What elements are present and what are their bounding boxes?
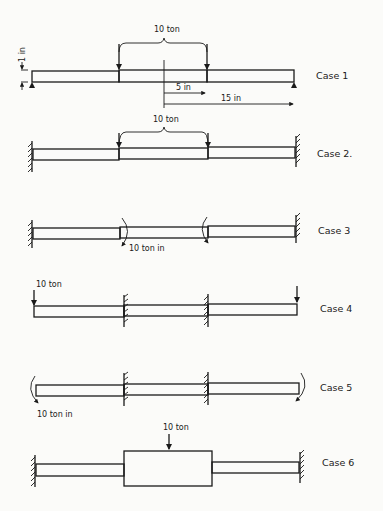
moment-arrow-left-icon — [31, 376, 38, 403]
support-left-icon — [29, 82, 35, 88]
moment-arrow-right-icon — [296, 373, 305, 401]
hatched-section-right — [212, 462, 299, 473]
case-label: Case 3 — [318, 225, 350, 236]
hatched-section-right — [208, 147, 295, 158]
case-3: 10 ton in Case 3 — [28, 213, 350, 253]
center-section — [119, 148, 208, 159]
hatched-section-left — [33, 228, 120, 239]
case-label: Case 2. — [317, 148, 352, 159]
fixed-wall-right-icon — [296, 134, 300, 167]
fixed-wall-left-icon — [28, 220, 32, 248]
center-section — [119, 70, 207, 82]
hatched-section-left — [33, 149, 119, 160]
hatched-section-right — [207, 70, 294, 82]
case-1: 10 ton 1 in 5 in 15 in Case 1 — [18, 25, 348, 108]
thickness-label: 1 in — [18, 47, 27, 62]
center-section — [124, 305, 208, 316]
moment-arrow-right-icon — [202, 217, 208, 243]
case-5: 10 ton in Case 5 — [31, 372, 353, 419]
beam-cases-diagram: 10 ton 1 in 5 in 15 in Case 1 10 ton — [0, 0, 383, 511]
hatched-section-left — [36, 464, 124, 476]
case-label: Case 4 — [320, 303, 352, 314]
hatched-section-left — [34, 306, 124, 317]
fixed-support-right-icon — [204, 294, 208, 327]
load-label: 10 ton in — [129, 244, 165, 253]
support-right-icon — [291, 82, 297, 88]
hatched-section-right — [208, 304, 297, 315]
case-4: 10 ton Case 4 — [34, 280, 352, 327]
fixed-support-left-icon — [124, 294, 128, 327]
fixed-wall-right-icon — [296, 213, 300, 243]
center-section — [120, 227, 208, 238]
fixed-wall-right-icon — [300, 450, 304, 483]
case-6: 10 ton Case 6 — [31, 423, 354, 487]
fixed-wall-left-icon — [28, 141, 32, 172]
load-label: 10 ton — [153, 115, 179, 124]
case-label: Case 1 — [316, 70, 348, 81]
dim-inner-label: 5 in — [176, 83, 191, 92]
fixed-support-right-icon — [204, 372, 208, 405]
hatched-section-right — [208, 226, 295, 237]
hatched-section-left — [32, 71, 119, 82]
case-2: 10 ton Case 2. — [28, 115, 352, 172]
load-label: 10 ton — [163, 423, 189, 432]
load-label: 10 ton — [154, 25, 180, 34]
fixed-wall-left-icon — [31, 455, 35, 487]
dim-outer-label: 15 in — [221, 94, 241, 103]
hatched-section-right — [208, 383, 299, 394]
center-section — [124, 384, 208, 395]
case-label: Case 5 — [320, 382, 352, 393]
load-label: 10 ton — [36, 280, 62, 289]
fixed-support-left-icon — [124, 372, 128, 406]
case-label: Case 6 — [322, 457, 354, 468]
thick-block — [124, 451, 212, 486]
load-label: 10 ton in — [37, 410, 73, 419]
hatched-section-left — [36, 385, 124, 396]
load-brace — [119, 38, 207, 52]
moment-arrow-left-icon — [122, 218, 128, 246]
load-brace — [119, 127, 208, 146]
